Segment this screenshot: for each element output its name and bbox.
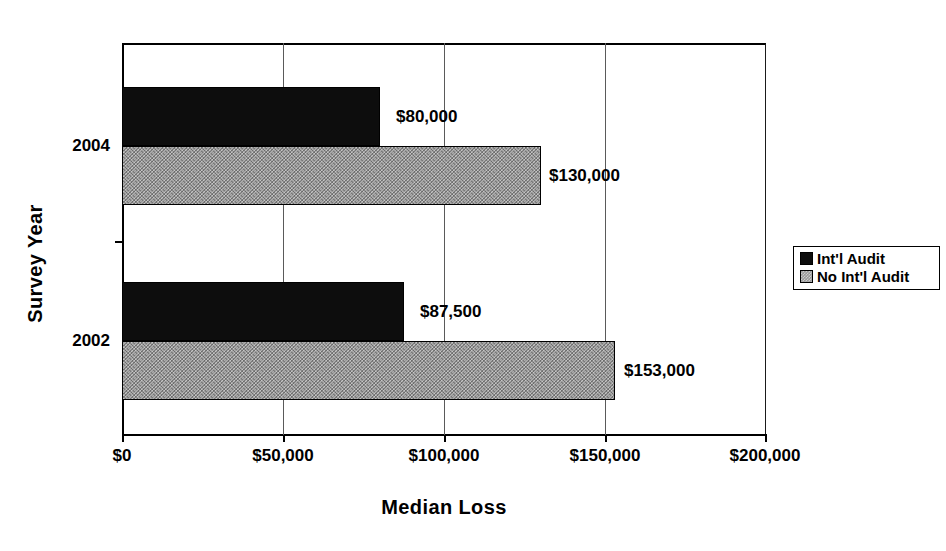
xtick-label-0: $0 bbox=[113, 447, 132, 464]
bar-label-2002-no-intl-audit: $153,000 bbox=[624, 362, 695, 379]
x-axis-title: Median Loss bbox=[122, 496, 766, 519]
xtick-mark-100000 bbox=[444, 435, 446, 442]
y-axis-title: Survey Year bbox=[24, 164, 47, 364]
ytick-label-2002: 2002 bbox=[58, 332, 110, 349]
legend-swatch-icon-intl-audit bbox=[800, 252, 813, 265]
bar-2004-intl-audit bbox=[122, 87, 380, 146]
legend-swatch-icon-no-intl-audit bbox=[800, 270, 813, 283]
bar-2004-no-intl-audit bbox=[122, 146, 541, 205]
legend-item-no-intl-audit: No Int'l Audit bbox=[800, 269, 934, 284]
legend-item-intl-audit: Int'l Audit bbox=[800, 251, 934, 266]
bar-2002-intl-audit bbox=[122, 282, 404, 341]
bar-chart-figure: $80,000 $130,000 $87,500 $153,000 2004 2… bbox=[0, 0, 946, 551]
xtick-mark-50000 bbox=[283, 435, 285, 442]
legend: Int'l Audit No Int'l Audit bbox=[793, 246, 940, 290]
ytick-label-2004: 2004 bbox=[58, 137, 110, 154]
bar-2002-no-intl-audit bbox=[122, 341, 615, 400]
xtick-label-100000: $100,000 bbox=[409, 447, 480, 464]
bar-label-2002-intl-audit: $87,500 bbox=[420, 303, 481, 320]
legend-label-intl-audit: Int'l Audit bbox=[817, 251, 885, 266]
xtick-mark-0 bbox=[122, 435, 124, 442]
legend-label-no-intl-audit: No Int'l Audit bbox=[817, 269, 909, 284]
xtick-label-50000: $50,000 bbox=[252, 447, 313, 464]
xtick-mark-200000 bbox=[765, 435, 767, 442]
xtick-label-200000: $200,000 bbox=[730, 447, 801, 464]
xtick-label-150000: $150,000 bbox=[570, 447, 641, 464]
xtick-mark-150000 bbox=[605, 435, 607, 442]
bar-label-2004-no-intl-audit: $130,000 bbox=[549, 167, 620, 184]
bar-label-2004-intl-audit: $80,000 bbox=[396, 108, 457, 125]
clipped-chart-title bbox=[0, 0, 946, 2]
ytick-mark-separator bbox=[115, 241, 123, 243]
